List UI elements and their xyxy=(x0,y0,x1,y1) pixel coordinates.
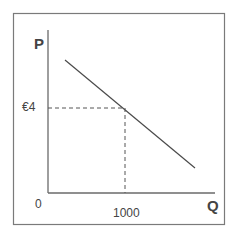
price-tick-label: €4 xyxy=(22,101,35,113)
y-axis-label: P xyxy=(34,36,44,51)
origin-label: 0 xyxy=(35,198,42,210)
quantity-tick-label: 1000 xyxy=(113,207,140,219)
x-axis-label: Q xyxy=(207,198,219,213)
